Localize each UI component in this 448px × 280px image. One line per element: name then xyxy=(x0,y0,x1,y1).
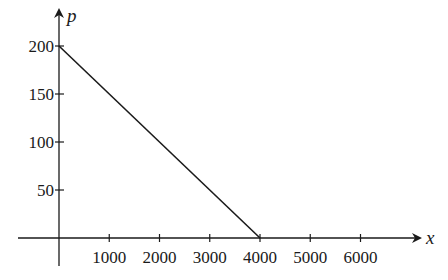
x-tick-label: 4000 xyxy=(243,248,277,267)
x-tick-label: 1000 xyxy=(92,248,126,267)
y-tick-label: 150 xyxy=(29,85,55,104)
y-tick-label: 200 xyxy=(29,37,55,56)
y-axis-label: p xyxy=(65,5,77,26)
x-tick-label: 2000 xyxy=(143,248,177,267)
x-ticks: 100020003000400050006000 xyxy=(92,234,377,267)
demand-line xyxy=(59,46,260,238)
x-tick-label: 5000 xyxy=(293,248,327,267)
x-axis-label: x xyxy=(425,227,435,248)
y-tick-label: 100 xyxy=(29,133,55,152)
x-tick-label: 6000 xyxy=(344,248,378,267)
data-series xyxy=(59,46,260,238)
chart: 100020003000400050006000 50100150200 x p xyxy=(0,0,448,280)
y-tick-label: 50 xyxy=(37,181,54,200)
x-tick-label: 3000 xyxy=(193,248,227,267)
